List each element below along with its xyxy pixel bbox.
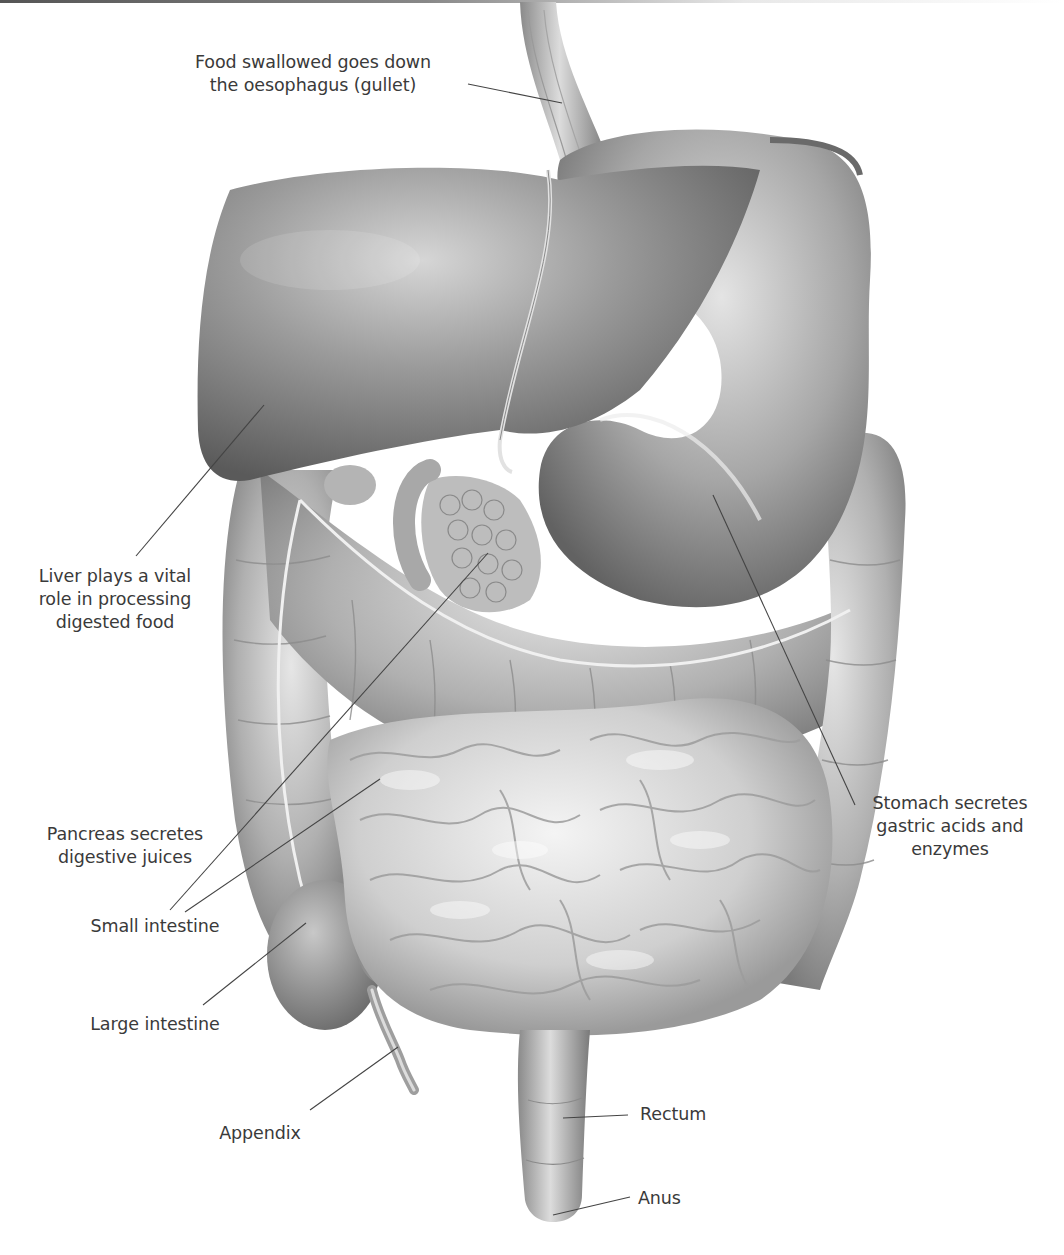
label-large-intestine: Large intestine <box>55 1013 255 1036</box>
small-intestine <box>327 698 832 1035</box>
label-line: Rectum <box>640 1103 706 1126</box>
rectum <box>518 1030 590 1222</box>
label-liver: Liver plays a vital role in processing d… <box>0 565 230 634</box>
label-line: enzymes <box>835 838 1064 861</box>
oesophagus <box>520 2 608 160</box>
leader-line-appendix <box>310 1047 398 1110</box>
label-line: Anus <box>638 1187 681 1210</box>
pancreas <box>421 476 541 612</box>
label-small-intestine: Small intestine <box>50 915 260 938</box>
label-oesophagus: Food swallowed goes down the oesophagus … <box>158 51 468 97</box>
label-line: digested food <box>0 611 230 634</box>
label-line: the oesophagus (gullet) <box>158 74 468 97</box>
label-line: Liver plays a vital <box>0 565 230 588</box>
label-rectum: Rectum <box>640 1103 706 1126</box>
label-line: Large intestine <box>55 1013 255 1036</box>
label-stomach: Stomach secretes gastric acids and enzym… <box>835 792 1064 861</box>
label-appendix: Appendix <box>200 1122 320 1145</box>
label-line: Small intestine <box>50 915 260 938</box>
gallbladder <box>324 465 376 505</box>
label-line: Pancreas secretes <box>20 823 230 846</box>
label-line: role in processing <box>0 588 230 611</box>
label-line: digestive juices <box>20 846 230 869</box>
label-line: Stomach secretes <box>835 792 1064 815</box>
label-pancreas: Pancreas secretes digestive juices <box>20 823 230 869</box>
label-anus: Anus <box>638 1187 681 1210</box>
label-line: Appendix <box>200 1122 320 1145</box>
liver <box>198 166 760 481</box>
label-line: gastric acids and <box>835 815 1064 838</box>
label-line: Food swallowed goes down <box>158 51 468 74</box>
